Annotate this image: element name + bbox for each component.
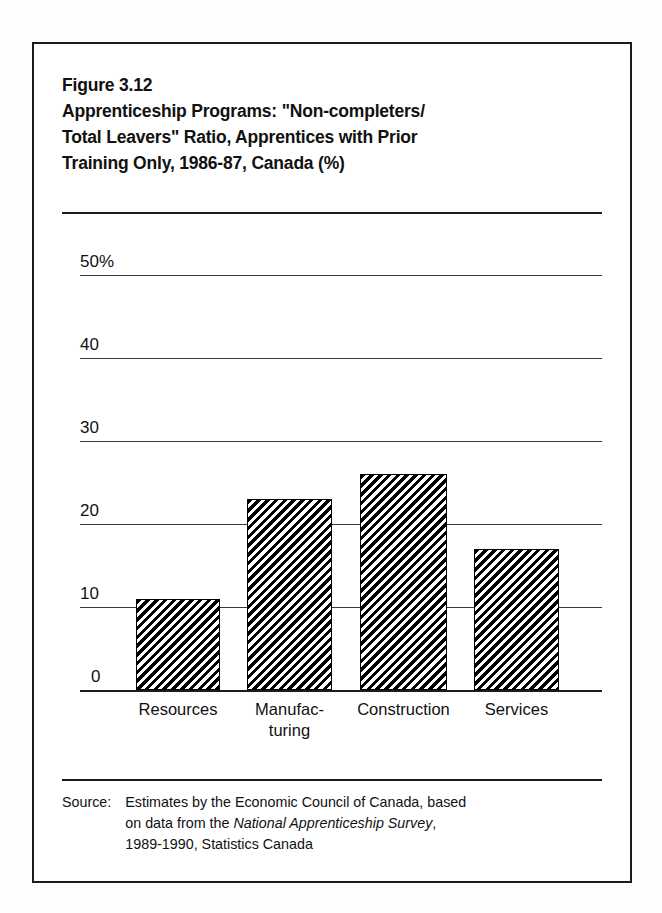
xlabel-construction: Construction — [346, 699, 461, 720]
bar-manufacturing[interactable] — [247, 499, 332, 690]
source-line-3: 1989-1990, Statistics Canada — [125, 836, 313, 852]
source-line-2-prefix: on data from the — [125, 815, 233, 831]
gridline-20 — [80, 524, 602, 525]
bar-construction[interactable] — [360, 474, 447, 690]
source-line-2-suffix: , — [432, 815, 436, 831]
ytick-label-0: 0 — [91, 668, 100, 685]
source-divider-rule — [62, 779, 602, 781]
ytick-label-10: 10 — [80, 585, 99, 602]
gridline-40 — [80, 358, 602, 359]
source-line-1: Estimates by the Economic Council of Can… — [125, 794, 466, 810]
bar-services[interactable] — [474, 549, 559, 690]
chart-plot-area: 50% 40 30 20 10 0 Resources Manufac- tur… — [34, 44, 634, 885]
xlabel-resources: Resources — [126, 699, 230, 720]
source-text: Estimates by the Economic Council of Can… — [125, 792, 607, 855]
xlabel-services: Services — [464, 699, 569, 720]
ytick-label-50: 50% — [80, 253, 114, 270]
source-publication-title: National Apprenticeship Survey — [233, 815, 432, 831]
gridline-50 — [80, 275, 602, 276]
bar-resources[interactable] — [136, 599, 220, 690]
ytick-label-30: 30 — [80, 419, 99, 436]
gridline-30 — [80, 441, 602, 442]
source-label: Source: — [62, 792, 111, 855]
xlabel-manufacturing: Manufac- turing — [237, 699, 342, 741]
figure-page: Figure 3.12 Apprenticeship Programs: "No… — [0, 0, 662, 913]
figure-frame: Figure 3.12 Apprenticeship Programs: "No… — [32, 42, 632, 883]
source-note: Source: Estimates by the Economic Counci… — [62, 792, 607, 855]
x-axis-line — [80, 690, 602, 692]
ytick-label-40: 40 — [80, 336, 99, 353]
ytick-label-20: 20 — [80, 502, 99, 519]
